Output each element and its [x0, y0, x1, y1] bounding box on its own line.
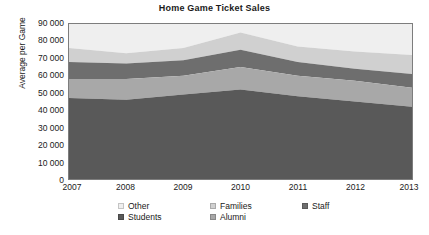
y-axis-tick: 60 000 — [0, 70, 64, 80]
y-axis-tick: 10 000 — [0, 158, 64, 168]
plot-inner — [69, 24, 412, 179]
legend-label: Alumni — [220, 212, 246, 222]
y-axis-tick: 80 000 — [0, 35, 64, 45]
legend-label: Staff — [312, 201, 329, 211]
y-axis-tick: 40 000 — [0, 105, 64, 115]
legend-swatch-icon — [118, 214, 124, 220]
chart-legend: OtherFamiliesStaffStudentsAlumni — [118, 200, 368, 222]
area-band-students — [69, 89, 412, 179]
x-axis-tick: 2012 — [346, 182, 365, 192]
x-axis-tick: 2010 — [231, 182, 250, 192]
chart-container: Home Game Ticket Sales Average per Game … — [0, 0, 429, 235]
y-axis-tick: 20 000 — [0, 140, 64, 150]
legend-swatch-icon — [118, 203, 124, 209]
y-axis-tick: 50 000 — [0, 88, 64, 98]
x-axis-tick: 2009 — [174, 182, 193, 192]
plot-area — [68, 23, 413, 180]
legend-item-staff[interactable]: Staff — [302, 201, 368, 211]
x-axis-tick: 2013 — [400, 182, 419, 192]
chart-title: Home Game Ticket Sales — [0, 3, 429, 13]
y-axis-tick: 30 000 — [0, 123, 64, 133]
y-axis-tick: 90 000 — [0, 18, 64, 28]
legend-swatch-icon — [210, 214, 216, 220]
legend-item-alumni[interactable]: Alumni — [210, 212, 302, 222]
x-axis-tick: 2007 — [63, 182, 82, 192]
y-axis-tick: 0 — [0, 175, 64, 185]
legend-label: Families — [220, 201, 252, 211]
legend-item-students[interactable]: Students — [118, 212, 210, 222]
x-axis-tick-labels: 2007200820092010201120122013 — [68, 182, 413, 196]
legend-swatch-icon — [302, 203, 308, 209]
stacked-area-svg — [69, 24, 412, 179]
legend-label: Other — [128, 201, 149, 211]
legend-item-families[interactable]: Families — [210, 201, 302, 211]
legend-swatch-icon — [210, 203, 216, 209]
legend-label: Students — [128, 212, 162, 222]
x-axis-tick: 2008 — [116, 182, 135, 192]
y-axis-tick: 70 000 — [0, 53, 64, 63]
y-axis-tick-labels: 010 00020 00030 00040 00050 00060 00070 … — [0, 23, 64, 180]
x-axis-tick: 2011 — [289, 182, 307, 192]
legend-item-other[interactable]: Other — [118, 201, 210, 211]
